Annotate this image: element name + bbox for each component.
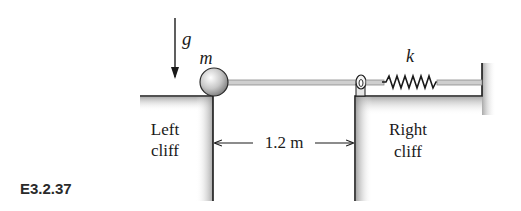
right-cliff-label-line1: Right — [389, 120, 427, 139]
mass-label: m — [200, 48, 213, 68]
spring-constant-label: k — [406, 46, 415, 66]
left-cliff-label-line2: cliff — [151, 141, 179, 160]
spring-wall-rod — [437, 80, 482, 85]
gravity-arrow — [171, 18, 179, 79]
mass-ball — [200, 68, 228, 96]
pivot-bracket — [356, 75, 366, 96]
gravity-label: g — [182, 28, 192, 49]
spring — [382, 76, 438, 88]
left-cliff-label-line1: Left — [151, 120, 180, 139]
figure-id-label: E3.2.37 — [20, 180, 72, 197]
gap-dimension-label: 1.2 m — [265, 133, 304, 152]
right-cliff-label-line2: cliff — [394, 142, 422, 161]
spring-link-rod — [366, 80, 384, 85]
rigid-rod — [226, 80, 360, 85]
pendulum-spring-diagram: g m k Left cliff Right cliff 1.2 m E3.2.… — [0, 0, 521, 211]
